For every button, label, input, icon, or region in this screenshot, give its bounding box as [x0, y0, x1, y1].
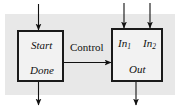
in1-base: In [118, 37, 127, 49]
start-label: Start [31, 40, 52, 51]
in1-label: In1 [118, 38, 131, 49]
start-done-block: Start Done [17, 30, 64, 82]
in2-base: In [143, 37, 152, 49]
function-block: In1 In2 Out [111, 28, 163, 82]
diagram-figure: Start Done In1 In2 Out Control [0, 0, 175, 109]
out-label: Out [129, 64, 146, 75]
control-connector-label: Control [70, 42, 104, 53]
done-label: Done [30, 65, 54, 76]
in1-subscript: 1 [127, 42, 131, 51]
in2-subscript: 2 [152, 42, 156, 51]
in2-label: In2 [143, 38, 156, 49]
